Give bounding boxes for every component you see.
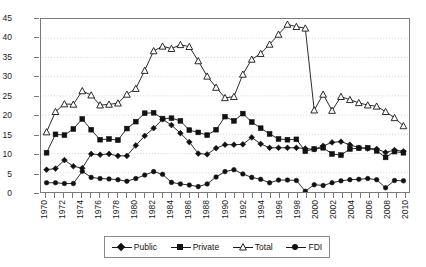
x-axis-tick-label: 1992 <box>239 200 248 219</box>
square-marker <box>116 138 121 143</box>
triangle-marker-icon <box>239 244 247 251</box>
legend-item-total[interactable]: Total <box>233 242 273 252</box>
x-axis-tick-label: 2002 <box>329 200 338 219</box>
circle-marker <box>98 176 103 181</box>
square-marker <box>383 155 388 160</box>
circle-marker <box>276 178 281 183</box>
x-axis-tick <box>54 193 55 198</box>
diamond-marker <box>115 153 121 159</box>
diamond-marker <box>267 145 273 151</box>
circle-marker <box>214 175 219 180</box>
x-axis-tick-label: 1994 <box>257 200 266 219</box>
x-axis-tick <box>45 193 46 198</box>
triangle-marker <box>382 108 389 114</box>
circle-marker <box>321 183 326 188</box>
x-axis-tick <box>108 193 109 198</box>
x-axis-tick-label: 1998 <box>293 200 302 219</box>
circle-marker <box>339 179 344 184</box>
y-axis-tick <box>34 174 39 175</box>
triangle-marker <box>88 92 95 98</box>
triangle-marker <box>347 96 354 102</box>
triangle-marker <box>248 56 255 62</box>
circle-marker <box>267 180 272 185</box>
y-axis-tick <box>34 76 39 77</box>
square-marker <box>107 137 112 142</box>
diamond-marker <box>231 142 237 148</box>
square-marker <box>312 147 317 152</box>
legend-label: FDI <box>308 242 322 252</box>
diamond-marker <box>44 167 50 173</box>
circle-marker <box>312 182 317 187</box>
circle-marker <box>44 180 49 185</box>
circle-marker <box>249 175 254 180</box>
square-marker-icon <box>177 244 183 250</box>
x-axis-tick-label: 1982 <box>148 200 157 219</box>
x-axis-tick-label: 1996 <box>275 200 284 219</box>
x-axis-tick <box>387 193 388 198</box>
square-marker <box>267 132 272 137</box>
legend-swatch <box>233 243 253 252</box>
circle-marker <box>151 169 156 174</box>
legend-item-private[interactable]: Private <box>171 242 219 252</box>
x-axis-tick-label: 2000 <box>311 200 320 219</box>
circle-marker <box>401 179 406 184</box>
y-axis-tick <box>34 57 39 58</box>
circle-marker <box>142 173 147 178</box>
square-marker <box>89 127 94 132</box>
circle-marker-icon <box>292 244 298 250</box>
legend-swatch <box>286 243 306 252</box>
diamond-marker <box>222 142 228 148</box>
diamond-marker <box>70 163 76 169</box>
x-axis-tick-label: 1990 <box>221 200 230 219</box>
y-axis-tick-label: 5 <box>0 170 12 178</box>
diamond-marker <box>285 145 291 151</box>
x-axis-tick <box>72 193 73 198</box>
circle-marker <box>303 189 308 192</box>
x-axis-tick-label: 1970 <box>40 200 49 219</box>
triangle-marker <box>391 114 398 120</box>
y-axis-tick <box>34 193 39 194</box>
circle-marker <box>205 182 210 187</box>
triangle-marker <box>284 21 291 27</box>
square-marker <box>178 119 183 124</box>
y-axis-tick-label: 20 <box>0 111 12 119</box>
series-fdi <box>44 167 405 192</box>
square-marker <box>187 128 192 133</box>
x-axis-tick <box>243 193 244 198</box>
circle-marker <box>258 177 263 182</box>
square-marker <box>240 111 245 116</box>
circle-marker <box>134 176 139 181</box>
square-marker <box>348 147 353 152</box>
circle-marker <box>365 176 370 181</box>
x-axis-tick-label: 2004 <box>347 200 356 219</box>
square-marker <box>276 137 281 142</box>
y-axis-tick <box>34 115 39 116</box>
x-axis-tick <box>135 193 136 198</box>
triangle-marker <box>159 43 166 49</box>
x-axis-tick <box>279 193 280 198</box>
x-axis-tick <box>270 193 271 198</box>
x-axis-tick <box>171 193 172 198</box>
circle-marker <box>232 167 237 172</box>
circle-marker <box>294 178 299 183</box>
square-marker <box>392 149 397 154</box>
legend-label: Private <box>193 242 219 252</box>
circle-marker <box>116 177 121 182</box>
circle-marker <box>187 183 192 188</box>
diamond-marker <box>294 145 300 151</box>
y-axis-tick <box>34 135 39 136</box>
x-axis-tick-label: 2010 <box>401 200 410 219</box>
x-axis-tick <box>189 193 190 198</box>
x-axis-tick <box>315 193 316 198</box>
circle-marker <box>392 178 397 183</box>
legend-item-public[interactable]: Public <box>112 242 157 252</box>
x-axis-tick <box>63 193 64 198</box>
square-marker <box>62 133 67 138</box>
x-axis-tick-label: 1978 <box>112 200 121 219</box>
legend-item-fdi[interactable]: FDI <box>286 242 322 252</box>
x-axis-tick <box>144 193 145 198</box>
circle-marker <box>160 172 165 177</box>
x-axis-tick <box>126 193 127 198</box>
square-marker <box>160 116 165 121</box>
y-axis-tick <box>34 154 39 155</box>
